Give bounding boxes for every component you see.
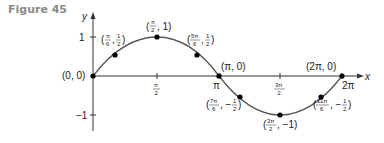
svg-text:π: π [106, 33, 110, 39]
svg-text:(: ( [101, 34, 105, 45]
svg-text:6: 6 [212, 106, 216, 112]
sine-graph: y x 1 −1 π 2 π 3π 2 2π (0, 0) ( π 6 , 1 … [0, 0, 384, 143]
svg-text:6: 6 [320, 106, 324, 112]
label-origin: (0, 0) [62, 70, 85, 81]
svg-text:1: 1 [117, 33, 121, 39]
xtick-2pi: 2π [342, 80, 355, 91]
svg-text:, −: , − [330, 99, 342, 110]
svg-text:2: 2 [343, 106, 347, 112]
label-3pi-2-minus-one: ( 3π 2 , −1) [263, 118, 297, 132]
svg-text:): ) [211, 34, 214, 45]
label-7pi-6-minus-half: ( 7π 6 , − 1 2 ) [206, 98, 241, 112]
label-pi-2-one: ( π 2 , 1) [146, 19, 171, 33]
y-axis [91, 12, 96, 131]
svg-text:,: , [112, 34, 115, 45]
svg-text:, 1): , 1) [157, 21, 171, 32]
svg-text:π: π [154, 82, 158, 88]
xtick-pi-over-2: π 2 [153, 82, 160, 96]
svg-text:3π: 3π [267, 118, 274, 124]
svg-text:6: 6 [106, 41, 110, 47]
svg-text:1: 1 [206, 33, 210, 39]
label-2pi-zero: (2π, 0) [306, 61, 336, 72]
svg-text:11π: 11π [317, 98, 327, 104]
svg-text:1: 1 [343, 98, 347, 104]
svg-text:1: 1 [233, 98, 237, 104]
svg-text:2: 2 [278, 90, 282, 96]
svg-text:2: 2 [117, 41, 121, 47]
label-pi-zero: (π, 0) [221, 61, 246, 72]
svg-text:, −1): , −1) [277, 119, 297, 130]
svg-text:3π: 3π [275, 82, 282, 88]
svg-text:π: π [151, 19, 155, 25]
y-axis-label: y [81, 11, 88, 22]
label-11pi-6-minus-half: ( 11π 6 , − 1 2 ) [313, 98, 351, 112]
svg-text:): ) [238, 99, 241, 110]
svg-text:6: 6 [193, 41, 197, 47]
svg-text:,: , [201, 34, 204, 45]
svg-text:): ) [122, 34, 125, 45]
svg-text:2: 2 [155, 90, 159, 96]
svg-text:2: 2 [206, 41, 210, 47]
ytick-minus1: −1 [76, 110, 88, 121]
label-pi-6-half: ( π 6 , 1 2 ) [101, 33, 125, 47]
svg-text:7π: 7π [210, 98, 217, 104]
x-axis [93, 74, 364, 79]
svg-text:): ) [348, 99, 351, 110]
svg-text:2: 2 [233, 106, 237, 112]
label-5pi-6-half: ( 5π 6 , 1 2 ) [187, 33, 214, 47]
x-axis-label: x [364, 71, 371, 82]
svg-text:5π: 5π [191, 33, 198, 39]
svg-text:(: ( [146, 21, 150, 32]
svg-text:, −: , − [220, 99, 232, 110]
svg-text:2: 2 [269, 126, 273, 132]
ytick-1: 1 [79, 32, 85, 43]
svg-text:2: 2 [151, 27, 155, 33]
xtick-3pi-over-2: 3π 2 [274, 82, 285, 96]
xtick-pi: π [213, 80, 220, 91]
